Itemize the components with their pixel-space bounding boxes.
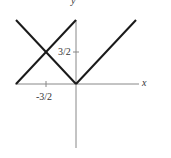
y-tick-label: 3/2 [58, 47, 71, 57]
series-line-x [76, 20, 136, 84]
x-axis-label: x [142, 78, 146, 88]
y-axis-label: y [71, 0, 75, 6]
x-tick-label: -3/2 [36, 92, 52, 102]
